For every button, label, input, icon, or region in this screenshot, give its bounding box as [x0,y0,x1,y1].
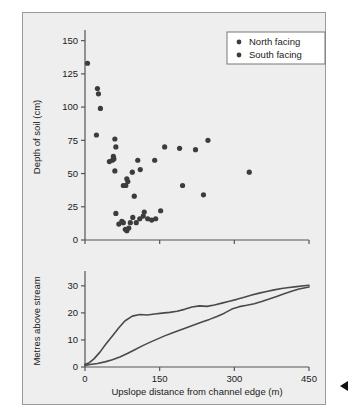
scatter-y-tick-label: 150 [62,35,78,46]
scatter-point [85,61,90,66]
scatter-y-tick-label: 125 [62,68,78,79]
line-y-tick-label: 30 [67,280,78,291]
legend-label: North facing [249,36,300,47]
line-x-tick-label: 150 [152,373,168,384]
legend-marker-icon [237,40,242,45]
line-y-tick-label: 10 [67,334,78,345]
scatter-point [135,158,140,163]
scatter-point [152,158,157,163]
line-y-tick-label: 0 [73,361,78,372]
scatter-y-tick-label: 100 [62,101,78,112]
left-pointing-triangle-icon [340,381,348,391]
scatter-point [125,179,130,184]
line-x-axis-title: Upslope distance from channel edge (m) [111,386,282,397]
scatter-point [112,136,117,141]
scatter-y-axis-title: Depth of soil (cm) [31,100,42,174]
scatter-y-tick-label: 50 [67,168,78,179]
scatter-point [126,225,131,230]
scatter-point [158,208,163,213]
scatter-point [121,220,126,225]
scatter-point [162,144,167,149]
scatter-y-tick-label: 75 [67,135,78,146]
scatter-point [113,144,118,149]
figure-root: 0255075100125150Depth of soil (cm) 01020… [0,0,360,418]
line-y-tick-label: 20 [67,307,78,318]
scatter-point [130,170,135,175]
scatter-point [128,220,133,225]
scatter-point [193,147,198,152]
scatter-y-tick-label: 25 [67,201,78,212]
legend-marker-icon [237,53,242,58]
scatter-point [95,86,100,91]
scatter-point [247,170,252,175]
scatter-point [134,220,139,225]
line-plot-elevation-profile: 01020300150300450Metres above streamUpsl… [31,271,317,397]
line-y-axis-title: Metres above stream [31,276,42,365]
chart-legend: North facingSouth facing [227,32,325,64]
scatter-point [177,146,182,151]
scatter-point [113,211,118,216]
scatter-point [205,138,210,143]
line-x-tick-label: 300 [226,373,242,384]
scatter-point [180,183,185,188]
scatter-y-tick-label: 0 [73,234,78,245]
scatter-point [111,154,116,159]
scatter-point [96,91,101,96]
scatter-point [130,215,135,220]
scatter-point [112,168,117,173]
profile-line [85,287,309,365]
scatter-point [142,209,147,214]
scatter-point [94,132,99,137]
chart-canvas: 0255075100125150Depth of soil (cm) 01020… [22,12,326,405]
scatter-point [98,106,103,111]
scatter-point [138,167,143,172]
line-x-tick-label: 450 [301,373,317,384]
line-x-tick-label: 0 [82,373,87,384]
scatter-point [132,194,137,199]
scatter-point [153,216,158,221]
scatter-point [201,192,206,197]
legend-label: South facing [249,49,302,60]
